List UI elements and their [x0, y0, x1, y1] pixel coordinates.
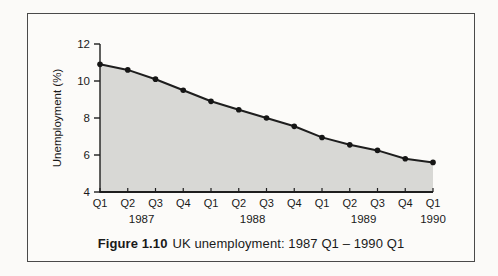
y-tick-label: 12: [77, 38, 90, 50]
x-tick-label: Q1: [204, 197, 219, 209]
x-tick-label: Q1: [426, 197, 441, 209]
x-tick-label: Q2: [231, 197, 246, 209]
y-axis-title: Unemployment (%): [51, 69, 63, 168]
x-tick-label: Q1: [93, 197, 108, 209]
data-point: [291, 124, 297, 130]
x-tick-label: Q4: [287, 197, 302, 209]
data-point: [375, 148, 381, 154]
year-label: 1988: [240, 213, 266, 225]
data-point: [236, 107, 242, 113]
y-tick-label: 8: [84, 112, 90, 124]
data-point: [97, 62, 103, 68]
year-label: 1989: [351, 213, 377, 225]
data-point: [153, 76, 159, 82]
x-tick-label: Q4: [398, 197, 413, 209]
area-fill: [100, 64, 433, 192]
figure-caption: Figure 1.10UK unemployment: 1987 Q1 – 19…: [28, 236, 474, 251]
x-tick-label: Q3: [259, 197, 274, 209]
y-tick-label: 6: [84, 149, 90, 161]
y-tick-label: 4: [84, 186, 91, 198]
data-point: [430, 160, 436, 166]
data-point: [180, 87, 186, 93]
data-point: [402, 156, 408, 162]
year-label: 1990: [420, 213, 446, 225]
figure-caption-label: Figure 1.10: [98, 236, 168, 251]
x-tick-label: Q1: [315, 197, 330, 209]
data-point: [347, 142, 353, 148]
unemployment-chart: 4681012Q1Q2Q3Q4Q1Q2Q3Q4Q1Q2Q3Q4Q11987198…: [28, 14, 474, 228]
data-point: [208, 99, 214, 105]
data-point: [125, 67, 131, 73]
x-tick-label: Q3: [148, 197, 163, 209]
data-point: [264, 115, 270, 121]
x-tick-label: Q2: [120, 197, 135, 209]
x-tick-label: Q3: [370, 197, 385, 209]
y-tick-label: 10: [77, 75, 90, 87]
x-tick-label: Q2: [342, 197, 357, 209]
data-point: [319, 135, 325, 141]
x-tick-label: Q4: [176, 197, 191, 209]
book-page: 4681012Q1Q2Q3Q4Q1Q2Q3Q4Q1Q2Q3Q4Q11987198…: [0, 0, 498, 276]
year-label: 1987: [129, 213, 155, 225]
figure-caption-text: UK unemployment: 1987 Q1 – 1990 Q1: [172, 236, 404, 251]
figure-frame: 4681012Q1Q2Q3Q4Q1Q2Q3Q4Q1Q2Q3Q4Q11987198…: [27, 13, 475, 262]
